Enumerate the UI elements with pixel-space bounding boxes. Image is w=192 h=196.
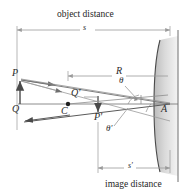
- angle-label-theta-prime: θ': [106, 124, 112, 133]
- object-distance-symbol: s: [83, 24, 86, 32]
- image-distance-symbol: s': [128, 162, 133, 170]
- image-distance-caption: image distance: [105, 180, 162, 190]
- point-label-Q-prime: Q': [71, 88, 80, 98]
- object-distance-caption: object distance: [57, 10, 114, 20]
- point-label-Q: Q: [12, 104, 19, 114]
- point-label-P-prime: P': [94, 112, 102, 122]
- angle-label-theta: θ: [119, 76, 123, 85]
- incident-ray: [21, 80, 170, 104]
- point-label-A: A: [161, 104, 167, 114]
- normal-radius-line: [68, 95, 168, 104]
- point-label-C: C: [61, 106, 68, 116]
- concave-mirror-ray-diagram: object distance s R P Q C Q' P' A θ θ' s…: [0, 0, 192, 196]
- incident-ray-upper: [21, 79, 170, 103]
- diagram-canvas: [0, 0, 192, 196]
- point-label-P: P: [12, 68, 18, 78]
